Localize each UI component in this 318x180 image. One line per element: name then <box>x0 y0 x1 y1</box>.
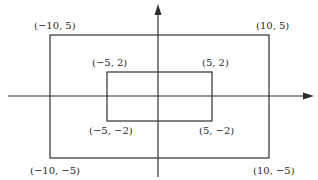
label-inner-bottom-right: (5, −2) <box>199 126 234 136</box>
label-inner-top-right: (5, 2) <box>202 58 229 68</box>
y-axis-arrow-icon <box>155 4 162 15</box>
label-inner-bottom-left: (−5, −2) <box>89 126 133 136</box>
label-outer-bottom-right: (10, −5) <box>253 166 295 176</box>
label-outer-top-right: (10, 5) <box>256 21 289 31</box>
label-inner-top-left: (−5, 2) <box>92 58 127 68</box>
label-outer-top-left: (−10, 5) <box>34 21 76 31</box>
label-outer-bottom-left: (−10, −5) <box>30 166 80 176</box>
x-axis-arrow-icon <box>303 93 314 100</box>
